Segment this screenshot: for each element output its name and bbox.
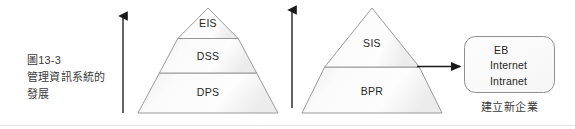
figure-caption-number: 圖13-3 xyxy=(27,52,125,69)
pyramid-left-label-dss: DSS xyxy=(197,50,220,62)
pyramid-left-label-eis: EIS xyxy=(199,17,217,29)
result-box-caption: 建立新企業 xyxy=(481,100,538,114)
pyramid-right-label-sis: SIS xyxy=(363,37,381,49)
pyramid-left: EIS DSS DPS xyxy=(138,8,278,113)
figure-caption: 圖13-3 管理資訊系統的 發展 xyxy=(27,52,125,103)
pyramid-right-label-bpr: BPR xyxy=(361,85,384,97)
pyramid-left-label-dps: DPS xyxy=(197,86,220,98)
result-box-line-intranet: Intranet xyxy=(490,75,527,87)
figure-caption-title-line1: 管理資訊系統的 xyxy=(27,69,125,86)
pyramid-right: SIS BPR xyxy=(302,8,442,113)
result-box-line-internet: Internet xyxy=(490,59,527,71)
figure-caption-title-line2: 發展 xyxy=(27,86,125,103)
figure-container: EIS DSS DPS SIS BPR EB Internet Intranet xyxy=(0,0,575,129)
result-box: EB Internet Intranet xyxy=(465,37,555,93)
result-box-line-eb: EB xyxy=(494,44,508,56)
